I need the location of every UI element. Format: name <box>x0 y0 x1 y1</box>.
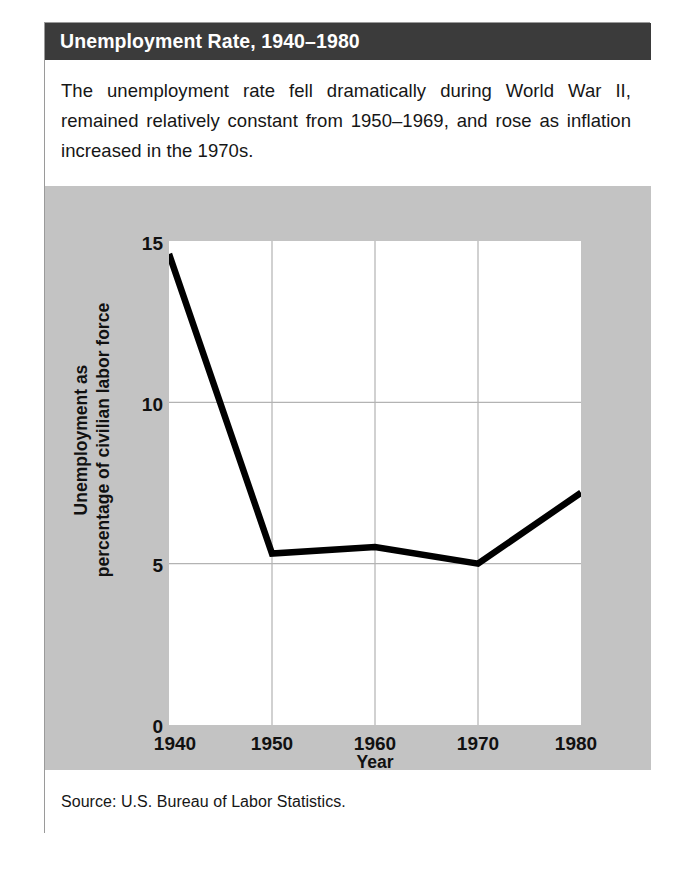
figure-page: Unemployment Rate, 1940–1980 The unemplo… <box>0 0 676 875</box>
figure-title: Unemployment Rate, 1940–1980 <box>45 32 360 52</box>
chart-band: 15 10 5 0 Unemployment as percentage of … <box>45 186 651 770</box>
figure-title-bar: Unemployment Rate, 1940–1980 <box>45 23 651 60</box>
source-block: Source: U.S. Bureau of Labor Statistics. <box>45 770 651 834</box>
x-axis-tick-labels: 1940 1950 1960 1970 1980 <box>45 186 651 770</box>
x-tick-label-1940: 1940 <box>154 734 196 753</box>
x-tick-label-1950: 1950 <box>251 734 293 753</box>
x-tick-label-1960: 1960 <box>354 734 396 753</box>
figure-caption: The unemployment rate fell dramatically … <box>61 76 631 166</box>
x-tick-label-1970: 1970 <box>457 734 499 753</box>
source-note: Source: U.S. Bureau of Labor Statistics. <box>45 793 346 811</box>
figure-card: Unemployment Rate, 1940–1980 The unemplo… <box>44 22 650 833</box>
x-axis-title: Year <box>169 754 581 772</box>
x-tick-label-1980: 1980 <box>555 734 597 753</box>
figure-caption-block: The unemployment rate fell dramatically … <box>45 60 651 186</box>
